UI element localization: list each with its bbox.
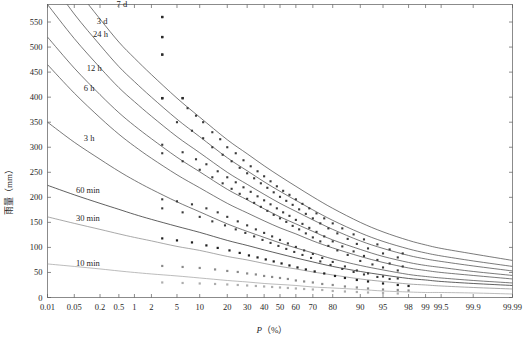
data-point: [288, 215, 290, 217]
data-point: [235, 152, 237, 154]
data-point: [271, 286, 273, 288]
data-point: [287, 278, 289, 280]
x-tick-label: 0.5: [114, 302, 125, 312]
data-point: [341, 268, 343, 270]
x-tick-label: 98: [404, 302, 413, 312]
data-point: [237, 271, 239, 273]
data-point: [332, 290, 334, 292]
data-point: [332, 261, 334, 263]
data-point: [231, 188, 233, 190]
data-point: [298, 208, 300, 210]
data-point: [332, 240, 334, 242]
data-point: [279, 239, 281, 241]
y-tick-label: 200: [30, 192, 43, 202]
data-point: [269, 242, 271, 244]
data-point: [222, 154, 224, 156]
data-point: [176, 121, 178, 123]
data-point: [402, 265, 404, 267]
data-point: [273, 191, 275, 193]
curve-label-3-h: 3 h: [84, 133, 95, 143]
data-point: [323, 272, 325, 274]
data-point: [261, 239, 263, 241]
data-point: [312, 288, 314, 290]
data-point: [217, 211, 219, 213]
x-tick-label: 40: [260, 302, 269, 312]
data-point: [336, 232, 338, 234]
data-point: [187, 107, 189, 109]
data-point: [199, 267, 201, 269]
data-point: [226, 146, 228, 148]
data-point: [303, 288, 305, 290]
curve-label-60-min: 60 min: [76, 185, 101, 195]
data-point: [356, 291, 358, 293]
x-tick-label: 70: [309, 302, 318, 312]
data-point: [363, 273, 365, 275]
data-point: [321, 257, 323, 259]
x-tick-label: 1: [132, 302, 136, 312]
data-point: [376, 243, 378, 245]
data-point: [382, 266, 384, 268]
data-point: [332, 284, 334, 286]
data-point: [246, 224, 248, 226]
curve-label-7-d: 7 d: [117, 0, 128, 9]
x-tick-label: 50: [276, 302, 285, 312]
data-point: [199, 216, 201, 218]
data-point: [356, 243, 358, 245]
data-point: [363, 238, 365, 240]
x-tick-label: 10: [195, 302, 204, 312]
x-tick-label: 95: [379, 302, 388, 312]
data-point: [263, 175, 265, 177]
curve-label-10-min: 10 min: [76, 258, 101, 268]
data-point: [308, 227, 310, 229]
data-point: [359, 260, 361, 262]
data-point: [176, 239, 178, 241]
data-point: [239, 193, 241, 195]
data-point: [382, 282, 384, 284]
data-point: [273, 214, 275, 216]
data-point: [161, 144, 163, 146]
data-point: [353, 233, 355, 235]
data-point: [226, 176, 228, 178]
data-point: [319, 240, 321, 242]
data-point: [265, 258, 267, 260]
data-point: [255, 285, 257, 287]
y-tick-label: 100: [30, 242, 43, 252]
x-tick-label: 0.05: [67, 302, 82, 312]
data-point: [295, 219, 297, 221]
outlier-point: [161, 36, 163, 38]
data-point: [228, 249, 230, 251]
data-point: [344, 290, 346, 292]
data-point: [310, 257, 312, 259]
data-point: [314, 270, 316, 272]
data-point: [214, 268, 216, 270]
data-point: [242, 159, 244, 161]
data-point: [257, 195, 259, 197]
data-point: [301, 223, 303, 225]
data-point: [295, 246, 297, 248]
data-point: [266, 210, 268, 212]
data-point: [282, 190, 284, 192]
data-point: [315, 212, 317, 214]
data-point: [219, 138, 221, 140]
chart-figure: 0.010.050.20.512510203040506070809095989…: [0, 0, 527, 341]
data-point: [382, 275, 384, 277]
x-tick-label: 60: [292, 302, 301, 312]
data-point: [292, 204, 294, 206]
data-point: [195, 158, 197, 160]
data-point: [269, 180, 271, 182]
data-point: [246, 272, 248, 274]
data-point: [199, 282, 201, 284]
y-tick-label: 400: [30, 92, 43, 102]
data-point: [285, 221, 287, 223]
data-point: [244, 232, 246, 234]
data-point: [271, 276, 273, 278]
data-point: [226, 270, 228, 272]
data-point: [327, 227, 329, 229]
data-point: [161, 207, 163, 209]
data-point: [211, 146, 213, 148]
outlier-point: [181, 97, 183, 99]
data-point: [308, 207, 310, 209]
data-point: [305, 232, 307, 234]
y-tick-label: 300: [30, 142, 43, 152]
data-point: [182, 160, 184, 162]
